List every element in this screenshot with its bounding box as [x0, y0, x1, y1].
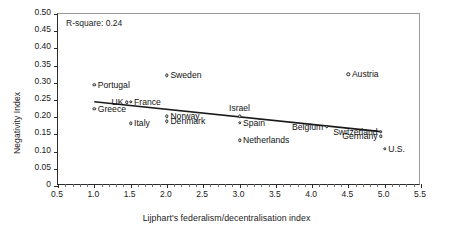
data-point-label: Sweden: [170, 71, 201, 80]
y-tick-label: 0.30: [19, 77, 51, 86]
x-tick-label: 3.0: [224, 190, 254, 199]
x-tick-label: 3.5: [260, 190, 290, 199]
data-point-label: France: [134, 97, 161, 106]
x-axis-title: Lijphart's federalism/decentralisation i…: [0, 213, 453, 223]
x-tick-label: 4.5: [332, 190, 362, 199]
y-tick-label: 0.50: [19, 8, 51, 17]
data-point-label: Denmark: [170, 117, 205, 126]
data-point-label: Netherlands: [243, 136, 289, 145]
data-point-label: Belgium: [292, 122, 323, 131]
data-point-label: Israel: [229, 104, 250, 113]
data-point-label: Spain: [243, 119, 265, 128]
x-tick-label: 1.5: [115, 190, 145, 199]
y-axis-title: Negativity Index: [0, 0, 8, 68]
data-point-label: Germany: [342, 132, 377, 141]
x-tick-label: 0.5: [42, 190, 72, 199]
x-tick-label: 5.0: [369, 190, 399, 199]
x-tick-label: 4.0: [296, 190, 326, 199]
y-tick-label: 0.35: [19, 60, 51, 69]
data-point-label: Portugal: [98, 80, 130, 89]
x-tick-label: 2.0: [151, 190, 181, 199]
data-point-label: Italy: [134, 119, 150, 128]
y-tick-label: 0.20: [19, 111, 51, 120]
y-tick-label: 0.15: [19, 128, 51, 137]
x-tick-label: 5.5: [405, 190, 435, 199]
plot-area: R-square: 0.24 PortugalGreeceUKFranceIta…: [57, 13, 420, 185]
x-tick-major: [421, 184, 422, 188]
data-point-label: UK: [112, 98, 124, 107]
data-point-label: U.S.: [388, 144, 405, 153]
y-tick-label: 0.45: [19, 25, 51, 34]
y-tick-label: 0.10: [19, 146, 51, 155]
chart-container: Negativity Index 00.050.100.150.200.250.…: [0, 0, 453, 235]
data-point-label: Austria: [352, 70, 379, 79]
x-tick-label: 2.5: [187, 190, 217, 199]
y-tick-label: 0: [19, 180, 51, 189]
y-tick-label: 0.05: [19, 163, 51, 172]
y-tick-label: 0.25: [19, 94, 51, 103]
y-tick-label: 0.40: [19, 42, 51, 51]
x-tick-label: 1.0: [78, 190, 108, 199]
